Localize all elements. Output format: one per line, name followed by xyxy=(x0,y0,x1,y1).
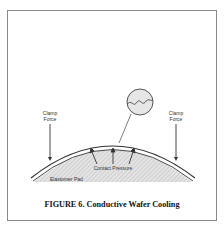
figure-caption: FIGURE 6. Conductive Wafer Cooling xyxy=(0,200,224,209)
wafer-cooling-diagram: Clamp Force Clamp Force Contact Pressure… xyxy=(0,0,224,228)
magnifier-detail xyxy=(119,89,153,143)
clamp-force-left-label-line2: Force xyxy=(44,116,57,122)
clamp-force-arrow-right xyxy=(174,124,178,161)
elastomer-pad-label: Elastomer Pad xyxy=(50,176,83,182)
clamp-force-right-label-line2: Force xyxy=(170,116,183,122)
contact-pressure-label: Contact Pressure xyxy=(94,165,133,171)
clamp-force-arrow-left xyxy=(48,124,52,161)
